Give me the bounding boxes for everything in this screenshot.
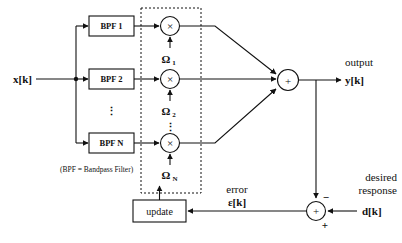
bpf-2-label: BPF 2 (100, 74, 122, 84)
input-label: x[k] (13, 73, 32, 85)
multiplier-1-symbol: × (167, 20, 173, 32)
diagram-canvas: BPF 1 BPF 2 BPF N ⋮ × × × Ω 1 Ω 2 ⋮ Ω N (0, 0, 402, 243)
multiplier-n-symbol: × (167, 137, 173, 149)
desired-label-line2: response (359, 184, 398, 196)
output-summer-symbol: + (285, 75, 291, 87)
bpf-ellipsis: ⋮ (106, 105, 117, 117)
update-block-label: update (146, 206, 173, 217)
weight-2-subscript: 2 (172, 111, 176, 119)
weight-1-subscript: 1 (172, 59, 176, 67)
bpf-legend-caption: (BPF = Bandpass Filter) (60, 165, 134, 174)
weight-n-symbol: Ω (162, 169, 171, 181)
error-summer-plus-sign: + (322, 219, 328, 231)
error-summer-minus-sign: − (323, 191, 329, 203)
weight-ellipsis: ⋮ (165, 121, 176, 133)
desired-signal-label: d[k] (362, 205, 382, 217)
error-summer-symbol: + (313, 205, 319, 217)
adaptive-filter-block-diagram: BPF 1 BPF 2 BPF N ⋮ × × × Ω 1 Ω 2 ⋮ Ω N (0, 0, 402, 243)
wire-multn-to-summer (180, 89, 276, 143)
wire-mult1-to-summer (180, 26, 276, 74)
output-label-top: output (345, 56, 373, 68)
weight-n-subscript: N (172, 175, 177, 183)
weight-2-symbol: Ω (162, 105, 171, 117)
output-label-signal: y[k] (345, 74, 364, 86)
bpf-1-label: BPF 1 (100, 21, 122, 31)
bpf-n-label: BPF N (99, 138, 124, 148)
weight-1-symbol: Ω (162, 53, 171, 65)
error-label-signal: ε[k] (228, 196, 246, 208)
desired-label-line1: desired (365, 171, 397, 183)
error-label-line1: error (226, 183, 248, 195)
multiplier-2-symbol: × (167, 73, 173, 85)
